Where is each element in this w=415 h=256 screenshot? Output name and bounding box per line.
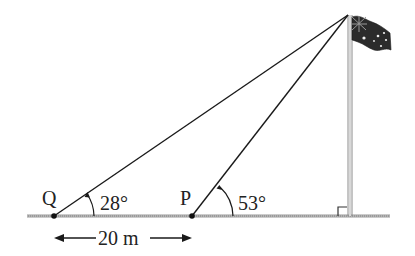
label-angle-p: 53° xyxy=(238,192,266,214)
flag-icon xyxy=(352,16,391,50)
point-p-marker xyxy=(189,213,195,219)
diagram-canvas: Q P 28° 53° 20 m xyxy=(0,0,415,256)
point-q-marker xyxy=(51,213,57,219)
angle-arc-q xyxy=(85,192,95,216)
label-p: P xyxy=(180,187,191,209)
label-distance: 20 m xyxy=(98,227,139,249)
label-angle-q: 28° xyxy=(100,192,128,214)
label-q: Q xyxy=(42,187,57,209)
angle-arc-p xyxy=(217,185,234,216)
sight-line-from-q xyxy=(54,15,348,216)
flag-pole xyxy=(348,15,352,216)
sight-line-from-p xyxy=(192,15,348,216)
